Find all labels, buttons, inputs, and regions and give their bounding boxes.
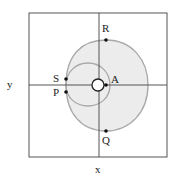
point-label-R: R	[102, 23, 109, 34]
point-S	[64, 77, 68, 81]
point-label-S: S	[53, 73, 59, 84]
diagram-canvas: R S A P Q y x	[0, 0, 179, 186]
point-label-P: P	[53, 87, 59, 98]
diagram-svg	[0, 0, 179, 186]
point-Q	[104, 129, 108, 133]
point-label-Q: Q	[102, 135, 110, 146]
point-P	[64, 90, 68, 94]
axis-label-y: y	[7, 79, 13, 90]
origin-circle	[92, 79, 104, 91]
point-label-A: A	[111, 74, 119, 85]
point-R	[104, 38, 108, 42]
axis-label-x: x	[95, 164, 101, 175]
point-A	[104, 83, 108, 87]
